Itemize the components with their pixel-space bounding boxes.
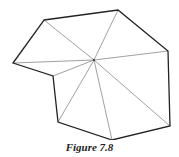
diagonal-to-bottom-right	[94, 60, 170, 126]
interior-point	[93, 59, 95, 61]
figure-caption: Figure 7.8	[0, 141, 179, 153]
diagonal-to-top-right	[94, 10, 118, 60]
diagonal-to-top-left	[44, 20, 94, 60]
diagonal-to-left	[13, 60, 94, 63]
diagonal-to-bottom	[94, 60, 112, 140]
diagonal-to-right	[94, 51, 168, 60]
diagonal-to-bottom-left	[58, 60, 94, 122]
diagonal-to-inner-notch	[53, 60, 94, 76]
polygon-outline	[13, 10, 170, 140]
triangulated-polygon-diagram	[0, 0, 179, 140]
